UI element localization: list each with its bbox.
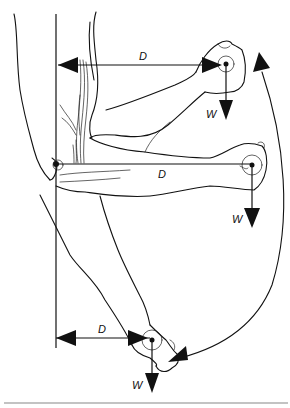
forearm-raised [90, 41, 245, 138]
arrowhead-down-icon [244, 208, 260, 228]
arrowhead-right-icon [202, 57, 222, 73]
arrowhead-left-icon [56, 330, 76, 346]
distance-label: D [139, 50, 147, 62]
weight-vector-raised: W [206, 62, 233, 121]
biceps-tendon [60, 60, 88, 163]
arrowhead-down-left-icon [168, 346, 188, 362]
weight-vector-lowered: W [132, 338, 159, 394]
arrowhead-down-icon [145, 373, 159, 393]
weight-label: W [206, 108, 218, 120]
arrowhead-up-icon [253, 52, 270, 72]
distance-label: D [98, 323, 106, 335]
distance-label: D [158, 168, 166, 180]
moment-arm-lowered: D [56, 323, 150, 346]
arrowhead-left-icon [58, 57, 78, 73]
moment-arm-horizontal: D [56, 164, 252, 180]
arrowhead-down-icon [219, 100, 233, 120]
weight-vector-horizontal: W [232, 163, 260, 229]
elbow-moment-arm-diagram: D W D W D W [0, 0, 290, 408]
forearm-horizontal [50, 122, 267, 197]
weight-label: W [132, 379, 144, 391]
weight-label: W [232, 213, 244, 225]
forearm-lowered [40, 195, 179, 372]
